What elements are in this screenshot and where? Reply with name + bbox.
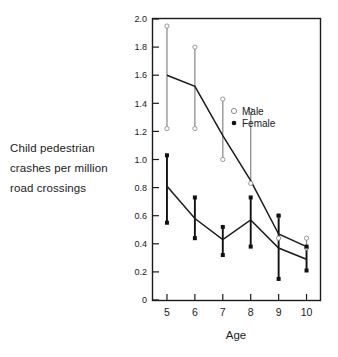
marker-filled-dot: [221, 225, 225, 229]
y-tick-label: 1.6: [134, 70, 147, 80]
y-axis-ticks: [153, 19, 159, 300]
y-axis-caption-line-1: Child pedestrian: [10, 138, 142, 158]
series-markers-female: [165, 153, 309, 281]
y-tick-label: 1.2: [134, 127, 147, 137]
x-tick-label: 10: [301, 306, 313, 318]
marker-open-circle: [165, 24, 169, 28]
x-tick-label: 7: [220, 306, 226, 318]
marker-filled-dot: [193, 195, 197, 199]
marker-filled-dot: [221, 253, 225, 257]
marker-open-circle: [193, 45, 197, 49]
marker-filled-dot: [193, 236, 197, 240]
series-line-male: [167, 75, 307, 246]
y-tick-label: 2.0: [134, 14, 147, 24]
marker-filled-dot: [305, 245, 309, 249]
y-axis-caption-line-2: crashes per million: [10, 158, 142, 178]
x-tick-label: 6: [192, 306, 198, 318]
error-bars-female: [167, 155, 307, 279]
marker-filled-dot: [249, 245, 253, 249]
marker-filled-dot: [249, 195, 253, 199]
x-axis-ticks: [167, 294, 307, 300]
legend-label-female: Female: [242, 118, 276, 129]
y-tick-label: 0: [142, 295, 147, 305]
y-axis-caption: Child pedestrian crashes per million roa…: [10, 138, 142, 198]
plot-frame: [153, 19, 321, 301]
marker-open-circle: [221, 97, 225, 101]
y-tick-label: 1.4: [134, 99, 147, 109]
x-tick-label: 8: [248, 306, 254, 318]
marker-open-circle: [277, 236, 281, 240]
x-axis-title: Age: [226, 329, 246, 341]
marker-filled-dot: [165, 221, 169, 225]
marker-filled-dot: [277, 214, 281, 218]
chart-figure: Child pedestrian crashes per million roa…: [0, 0, 338, 357]
marker-open-circle: [249, 181, 253, 185]
chart-legend: Male Female: [231, 106, 275, 129]
series-markers-male: [165, 24, 309, 250]
legend-label-male: Male: [242, 106, 264, 117]
x-tick-label: 5: [164, 306, 170, 318]
y-axis-caption-line-3: road crossings: [10, 178, 142, 198]
marker-filled-dot: [305, 268, 309, 272]
legend-marker-male-icon: [231, 108, 236, 113]
x-tick-label: 9: [276, 306, 282, 318]
y-tick-label: 1.8: [134, 42, 147, 52]
marker-filled-dot: [165, 153, 169, 157]
y-tick-label: 0.4: [134, 239, 147, 249]
marker-filled-dot: [277, 277, 281, 281]
marker-open-circle: [221, 157, 225, 161]
series-line-female: [167, 186, 307, 259]
marker-open-circle: [193, 126, 197, 130]
error-bars-male: [167, 26, 307, 248]
legend-marker-female-icon: [232, 121, 237, 126]
y-tick-label: 0.6: [134, 211, 147, 221]
y-tick-label: 0.2: [134, 267, 147, 277]
x-axis-tick-labels: 5678910: [164, 306, 313, 318]
marker-open-circle: [304, 236, 308, 240]
marker-open-circle: [165, 126, 169, 130]
